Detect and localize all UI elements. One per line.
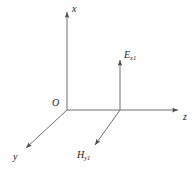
y-axis-label: y bbox=[13, 152, 17, 162]
electric-field-label-subscript: x1 bbox=[130, 54, 136, 61]
magnetic-field-vector bbox=[95, 110, 120, 145]
z-axis-label: z bbox=[183, 112, 187, 122]
origin-label: O bbox=[52, 98, 59, 108]
y-axis-line bbox=[26, 110, 67, 148]
coordinate-axes-figure: x y z O Ex1 Hy1 bbox=[0, 0, 196, 171]
magnetic-field-label-subscript: y1 bbox=[84, 154, 90, 161]
electric-field-label: Ex1 bbox=[124, 50, 136, 60]
x-axis-label: x bbox=[72, 4, 76, 14]
axes-drawing bbox=[0, 0, 196, 171]
magnetic-field-label: Hy1 bbox=[77, 150, 90, 160]
